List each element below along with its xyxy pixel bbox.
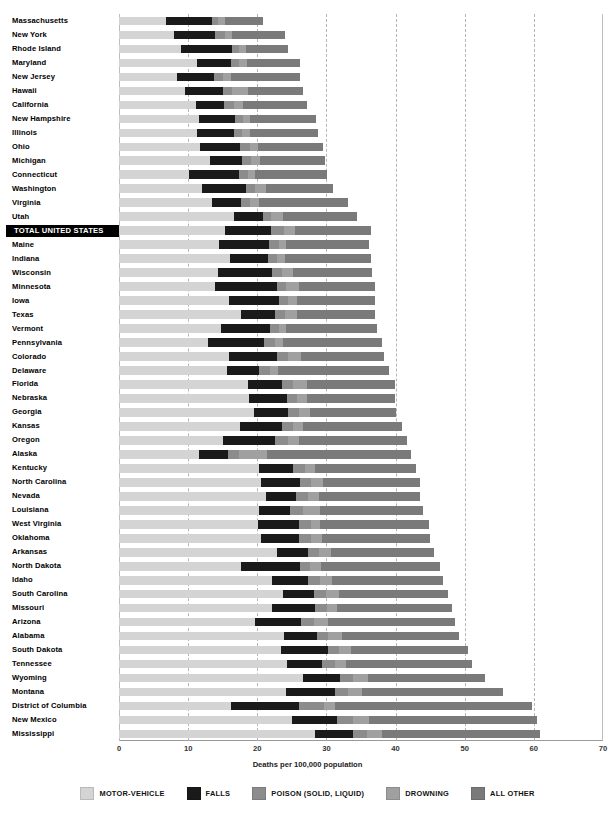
bar-segment-drowning: [286, 282, 298, 291]
legend-item[interactable]: POISON (SOLID, LIQUID): [252, 787, 364, 800]
bar-segment-drowning: [328, 632, 342, 641]
stacked-bar: [119, 492, 420, 501]
bar-segment-falls: [212, 198, 240, 207]
bar-row: [119, 394, 603, 403]
bar-row: [119, 212, 603, 221]
category-label-column: MassachusettsNew YorkRhode IslandMarylan…: [0, 14, 119, 741]
bar-segment-all-other: [286, 324, 377, 333]
bar-segment-motor-vehicle: [119, 352, 229, 361]
bar-segment-poison-solid-liquid: [235, 115, 243, 124]
bar-segment-drowning: [314, 618, 329, 627]
bar-segment-poison-solid-liquid: [314, 590, 326, 599]
legend-item[interactable]: ALL OTHER: [471, 787, 534, 800]
bar-segment-falls: [303, 674, 340, 683]
stacked-bar: [119, 101, 307, 110]
bar-segment-falls: [225, 226, 271, 235]
stacked-bar: [119, 143, 323, 152]
bar-row: [119, 282, 603, 291]
legend-item[interactable]: DROWNING: [386, 787, 449, 800]
bar-segment-drowning: [284, 226, 294, 235]
bar-segment-drowning: [324, 702, 335, 711]
bar-segment-falls: [219, 240, 269, 249]
bar-segment-falls: [241, 562, 300, 571]
legend-label: MOTOR-VEHICLE: [99, 789, 164, 798]
bar-segment-motor-vehicle: [119, 562, 241, 571]
bar-segment-all-other: [321, 562, 441, 571]
bar-segment-drowning: [239, 45, 246, 54]
bar-segment-all-other: [368, 674, 486, 683]
legend-item[interactable]: FALLS: [187, 787, 231, 800]
bar-segment-poison-solid-liquid: [240, 143, 250, 152]
bar-row: [119, 268, 603, 277]
bar-row: [119, 562, 603, 571]
bar-segment-all-other: [283, 338, 383, 347]
bar-segment-all-other: [278, 366, 389, 375]
category-label: Iowa: [0, 297, 112, 305]
bar-segment-all-other: [303, 422, 403, 431]
bar-segment-falls: [287, 660, 322, 669]
stacked-bar: [119, 45, 288, 54]
bar-segment-drowning: [239, 450, 267, 459]
bar-segment-all-other: [295, 226, 372, 235]
bar-segment-drowning: [255, 184, 265, 193]
stacked-bar: [119, 534, 430, 543]
category-label: North Dakota: [0, 562, 112, 570]
bar-segment-falls: [166, 17, 212, 26]
bar-segment-motor-vehicle: [119, 31, 174, 40]
bar-segment-motor-vehicle: [119, 198, 212, 207]
bar-segment-falls: [254, 408, 289, 417]
stacked-bar: [119, 324, 377, 333]
bar-row: [119, 310, 603, 319]
bar-segment-drowning: [277, 254, 285, 263]
legend-item[interactable]: MOTOR-VEHICLE: [80, 787, 164, 800]
bar-segment-poison-solid-liquid: [322, 660, 334, 669]
category-label: Colorado: [0, 353, 112, 361]
bar-segment-drowning: [308, 492, 319, 501]
bar-segment-motor-vehicle: [119, 478, 261, 487]
stacked-bar: [119, 268, 372, 277]
bar-row: [119, 534, 603, 543]
bar-segment-poison-solid-liquid: [282, 422, 292, 431]
category-label: Arkansas: [0, 548, 112, 556]
bar-segment-all-other: [247, 59, 300, 68]
bar-segment-drowning: [271, 212, 283, 221]
bar-row: [119, 674, 603, 683]
bar-segment-falls: [199, 115, 235, 124]
x-tick-60: 60: [530, 744, 538, 753]
bar-segment-poison-solid-liquid: [241, 198, 251, 207]
category-label: Kansas: [0, 422, 112, 430]
bar-segment-falls: [266, 492, 296, 501]
stacked-bar: [119, 422, 402, 431]
bar-segment-drowning: [243, 115, 250, 124]
bar-segment-drowning: [353, 716, 369, 725]
bar-segment-motor-vehicle: [119, 730, 315, 739]
category-label: Oregon: [0, 436, 112, 444]
stacked-bar: [119, 702, 532, 711]
bar-segment-poison-solid-liquid: [288, 408, 298, 417]
legend-label: DROWNING: [405, 789, 449, 798]
bar-segment-poison-solid-liquid: [272, 268, 282, 277]
bar-segment-falls: [177, 73, 214, 82]
bar-segment-all-other: [369, 716, 538, 725]
bar-segment-drowning: [250, 143, 258, 152]
category-label: South Dakota: [0, 646, 112, 654]
bar-row: [119, 590, 603, 599]
bar-segment-drowning: [319, 548, 331, 557]
bar-segment-all-other: [328, 618, 455, 627]
bar-segment-poison-solid-liquid: [275, 436, 287, 445]
stacked-bar: [119, 129, 318, 138]
stacked-bar: [119, 310, 375, 319]
stacked-bar: [119, 338, 382, 347]
bar-segment-poison-solid-liquid: [224, 101, 234, 110]
bar-segment-drowning: [311, 478, 323, 487]
bar-segment-all-other: [301, 352, 385, 361]
category-label: New York: [0, 31, 112, 39]
category-label: Utah: [0, 213, 112, 221]
bar-segment-falls: [249, 394, 287, 403]
bar-segment-all-other: [299, 282, 375, 291]
bar-row: [119, 478, 603, 487]
bar-row: [119, 604, 603, 613]
stacked-bar: [119, 436, 407, 445]
bar-segment-motor-vehicle: [119, 212, 234, 221]
bar-segment-motor-vehicle: [119, 450, 199, 459]
